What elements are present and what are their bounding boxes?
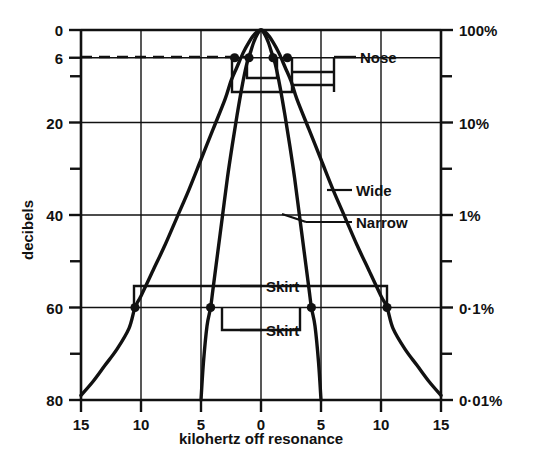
y-tick-label: 20 (46, 115, 63, 132)
data-point-skirt (307, 303, 316, 312)
data-point-skirt (382, 303, 391, 312)
x-tick-label: 15 (73, 416, 90, 433)
data-point-nose (244, 53, 253, 62)
annotation-skirt-upper: Skirt (266, 278, 299, 295)
annotation-skirt-lower: Skirt (266, 322, 299, 339)
data-point-nose (268, 53, 277, 62)
y2-tick-label: 100% (459, 22, 497, 39)
x-tick-label: 10 (373, 416, 390, 433)
y-tick-label: 60 (46, 300, 63, 317)
data-point-nose (283, 53, 292, 62)
chart-svg: 0620406080 100%10%1%0·1%0·01% 1510505101… (0, 0, 537, 460)
y-tick-label: 0 (55, 22, 63, 39)
data-point-nose (230, 53, 239, 62)
y-tick-label: 40 (46, 207, 63, 224)
annotation-narrow: Narrow (356, 214, 408, 231)
y2-tick-label: 10% (459, 115, 489, 132)
x-tick-label: 10 (133, 416, 150, 433)
y-axis-title: decibels (19, 200, 36, 260)
annotation-nose: Nose (360, 49, 397, 66)
y2-tick-label: 1% (459, 207, 481, 224)
y2-tick-label: 0·01% (459, 392, 502, 409)
annotation-wide: Wide (356, 182, 392, 199)
x-axis-title: kilohertz off resonance (179, 430, 343, 447)
y-tick-label: 6 (55, 50, 63, 67)
y-tick-label: 80 (46, 392, 63, 409)
y2-tick-label: 0·1% (459, 300, 494, 317)
selectivity-chart: 0620406080 100%10%1%0·1%0·01% 1510505101… (0, 0, 537, 460)
x-tick-label: 15 (433, 416, 450, 433)
data-point-skirt (206, 303, 215, 312)
data-point-skirt (130, 303, 139, 312)
